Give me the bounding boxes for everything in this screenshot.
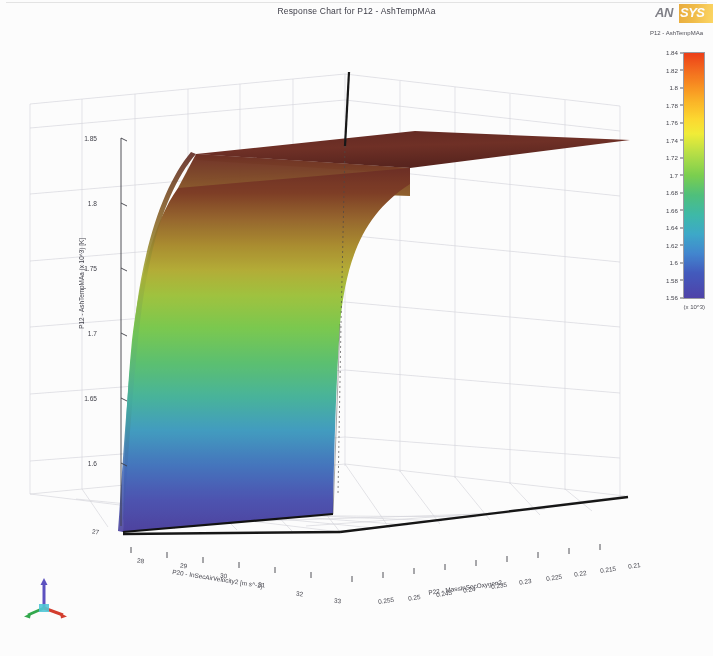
- colorbar-tick: 1.58: [666, 276, 683, 283]
- z-axis-tick: 1.65: [84, 395, 97, 402]
- triad-z-arrow: [41, 578, 48, 585]
- z-axis-title: P12 - AshTempMAa (x 10^3) [K]: [78, 238, 85, 329]
- colorbar-tick: 1.62: [666, 241, 683, 248]
- y-axis-line: [340, 497, 628, 532]
- colorbar-gradient: [683, 52, 705, 299]
- colorbar-tick: 1.56: [666, 294, 683, 301]
- x-axis-tick: 33: [334, 597, 342, 605]
- colorbar-tick: 1.66: [666, 206, 683, 213]
- x-axis-tick: 28: [137, 557, 145, 565]
- colorbar-tick: 1.72: [666, 154, 683, 161]
- x-axis-tick: 27: [92, 528, 100, 536]
- orientation-triad[interactable]: [22, 574, 68, 620]
- x-axis-line: [123, 532, 340, 534]
- z-axis-tick: 1.8: [88, 200, 97, 207]
- ansys-logo-text-an: AN: [655, 5, 673, 20]
- surface-plot-svg: [0, 24, 660, 634]
- colorbar-tick: 1.84: [666, 49, 683, 56]
- response-chart-window: Response Chart for P12 - AshTempMAa AN S…: [0, 0, 713, 656]
- page-title: Response Chart for P12 - AshTempMAa: [0, 6, 713, 16]
- colorbar-tick: 1.7: [669, 171, 683, 178]
- colorbar-tick: 1.74: [666, 136, 683, 143]
- z-axis-tick: 1.75: [84, 265, 97, 272]
- surface-plot[interactable]: [0, 24, 660, 634]
- colorbar-multiplier: (x 10^3): [684, 304, 706, 310]
- triad-x-arrow: [60, 613, 67, 619]
- z-axis-tick: 1.85: [84, 135, 97, 142]
- z-axis-tick: 1.7: [88, 330, 97, 337]
- x-axis-tick: 32: [296, 590, 304, 598]
- colorbar-tick: 1.68: [666, 189, 683, 196]
- z-axis-tick: 1.6: [88, 460, 97, 467]
- ansys-logo: AN SYS: [655, 4, 713, 24]
- colorbar-tick: 1.82: [666, 66, 683, 73]
- colorbar-tick: 1.64: [666, 224, 683, 231]
- colorbar-tick: 1.76: [666, 119, 683, 126]
- colorbar-tick: 1.6: [669, 259, 683, 266]
- surface-front-face: [123, 168, 410, 532]
- header-divider: [6, 2, 707, 3]
- colorbar-tick: 1.8: [669, 84, 683, 91]
- triad-origin-box: [39, 604, 49, 612]
- triad-svg: [22, 574, 68, 620]
- colorbar-tick: 1.78: [666, 101, 683, 108]
- vertical-axis-spike: [345, 72, 349, 146]
- y-axis-ticks: [352, 544, 600, 582]
- ansys-logo-text-sys: SYS: [680, 5, 705, 20]
